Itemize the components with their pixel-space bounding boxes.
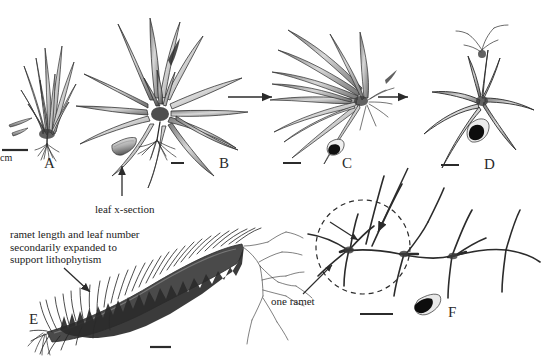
lithophytism-note: ramet length and leaf number secondarily… bbox=[10, 228, 140, 266]
panel-label-d: D bbox=[484, 156, 495, 173]
scale-bar-a-label: cm bbox=[0, 152, 12, 163]
panel-label-b: B bbox=[219, 155, 230, 172]
panel-a-base-shading bbox=[39, 129, 55, 139]
panel-label-f: F bbox=[448, 304, 457, 321]
panel-label-a: A bbox=[44, 155, 55, 172]
leaf-xsection-a bbox=[9, 118, 32, 136]
panel-d-apex bbox=[456, 25, 508, 52]
one-ramet-highlight-circle bbox=[316, 200, 410, 294]
panel-a-plant bbox=[21, 46, 76, 135]
panel-label-c: C bbox=[342, 155, 353, 172]
figure-canvas: A B C D E F cm leaf x-section ramet leng… bbox=[0, 0, 542, 364]
panel-e-basal-tuft bbox=[28, 333, 50, 355]
panel-c-plant bbox=[270, 30, 369, 164]
panel-f-plant bbox=[308, 176, 540, 298]
leaf-xsection-f bbox=[414, 294, 440, 315]
illustration-layer bbox=[0, 0, 542, 364]
panel-e-roots bbox=[243, 232, 312, 344]
panel-d-plant bbox=[424, 50, 534, 168]
leaf-x-section-label: leaf x-section bbox=[95, 203, 155, 216]
arrow-lithophytism-pointer bbox=[64, 268, 90, 292]
panel-label-e: E bbox=[29, 311, 39, 328]
panel-d-node-shading bbox=[476, 50, 488, 106]
one-ramet-label: one ramet bbox=[271, 295, 315, 308]
arrow-one-ramet-pointer bbox=[303, 265, 332, 294]
leaf-xsection-c bbox=[327, 139, 344, 155]
